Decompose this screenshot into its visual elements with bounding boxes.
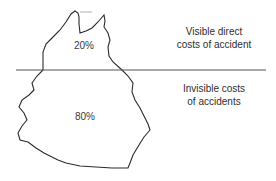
invisible-costs-caption-line2: of accidents	[187, 96, 240, 107]
iceberg-diagram: 20% 80% Visible direct costs of accident…	[0, 0, 276, 181]
iceberg-outline-shape	[18, 11, 150, 168]
visible-costs-caption-line1: Visible direct	[186, 26, 243, 37]
below-water-percentage-label: 80%	[75, 111, 95, 122]
invisible-costs-caption-line1: Invisible costs	[183, 83, 245, 94]
visible-costs-caption-line2: costs of accident	[177, 39, 252, 50]
above-water-percentage-label: 20%	[74, 40, 94, 51]
